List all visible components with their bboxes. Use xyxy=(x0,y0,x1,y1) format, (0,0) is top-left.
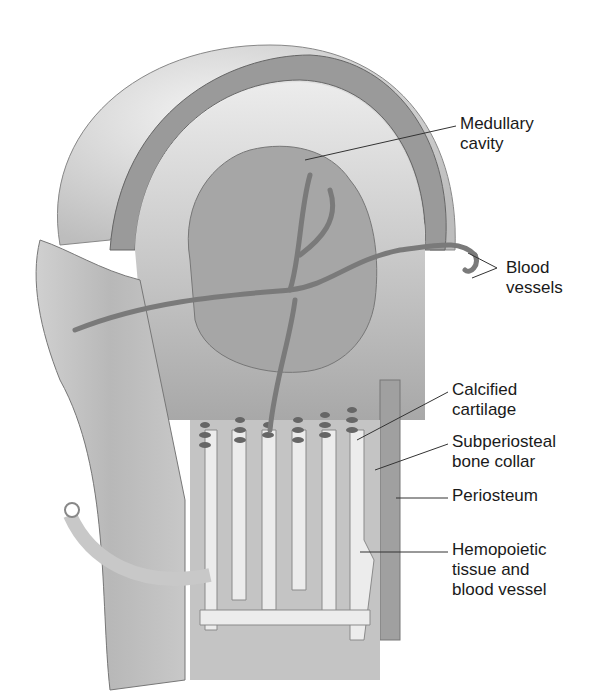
label-hemopoietic-tissue: Hemopoietic tissue and blood vessel xyxy=(452,540,547,600)
label-medullary-cavity: Medullary cavity xyxy=(460,114,534,154)
vessel-lumen xyxy=(65,503,79,517)
bone-diagram: Medullary cavity Blood vessels Calcified… xyxy=(0,0,600,697)
leader-blood-vessels xyxy=(468,253,497,278)
medullary-cavity xyxy=(188,146,376,372)
label-subperiosteal-bone-collar: Subperiosteal bone collar xyxy=(452,432,556,472)
label-calcified-cartilage: Calcified cartilage xyxy=(452,380,517,420)
label-blood-vessels: Blood vessels xyxy=(506,258,563,298)
label-periosteum: Periosteum xyxy=(452,486,538,506)
